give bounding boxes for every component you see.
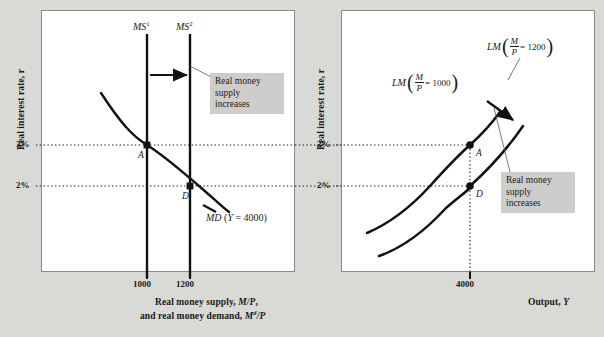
right-x-axis-title-var: Y [563,297,569,307]
right-xtick-label-4000: 4000 [456,279,474,289]
lm1-name: LM [392,77,406,88]
left-x-axis-title-var3: /P [257,311,266,321]
lm1-fraction: M P [415,73,425,93]
lm1-value: = 1000 [425,78,450,88]
right-x-axis-title: Output, Y [528,297,569,307]
right-y-axis-title: Real interest rate, r [316,69,326,150]
lm2-name: LM [487,41,501,52]
lm2-numerator: M [510,37,520,46]
left-xtick-label-1200: 1200 [176,279,194,289]
lm1-open-paren: ( [407,75,414,91]
lm2-label: LM ( M P = 1200 ) [487,36,553,57]
left-x-axis-title-line2: and real money demand, Md/P [140,309,265,321]
right-x-axis-title-text: Output, [528,297,563,307]
right-callout-line3: increases [506,198,570,210]
ms2-label: MS2 [176,20,193,32]
left-x-axis-title-text2: and real money demand, [140,311,242,321]
left-point-a-label: A [138,150,144,160]
lm1-label: LM ( M P = 1000 ) [392,72,458,93]
md-curve-name: MD [206,212,222,223]
left-ytick-2pct: 2% [16,180,30,190]
ms2-label-sup: 2 [189,20,192,27]
md-curve-label: MD (Y = 4000) [206,212,267,223]
right-point-a-label: A [476,148,482,158]
left-x-axis-title-line1: Real money supply, M/P, [155,297,258,307]
lm-curve-plot-area [341,10,595,272]
right-callout-line1: Real money [506,175,570,187]
right-callout-line2: supply [506,187,570,199]
left-point-d-label: D [182,191,189,201]
md-curve-arg: (Y = 4000) [224,212,267,223]
right-point-d-label: D [476,189,483,199]
right-callout-box: Real money supply increases [501,172,575,213]
lm1-close-paren: ) [451,75,458,91]
lm1-numerator: M [415,73,425,82]
lm2-open-paren: ( [502,39,509,55]
right-ytick-3pct: 3% [317,139,331,149]
ms1-label: MS1 [133,20,150,32]
left-xtick-label-1000: 1000 [133,279,151,289]
lm2-fraction: M P [510,37,520,57]
left-ytick-3pct: 3% [16,139,30,149]
left-x-axis-title-var1: M/P [238,297,255,307]
md-curve-y-var: Y [227,212,233,223]
money-market-plot-area [41,10,295,272]
ms1-label-text: MS [133,21,146,32]
left-x-axis-title-text1: Real money supply, [155,297,236,307]
right-ytick-2pct: 2% [317,180,331,190]
figure-container: Real interest rate, r 3% 2% 1000 1200 Re… [0,0,604,337]
ms2-label-text: MS [176,21,189,32]
left-callout-line2: supply [215,88,279,100]
lm2-close-paren: ) [546,39,553,55]
left-callout-box: Real money supply increases [210,73,284,114]
left-callout-line3: increases [215,99,279,111]
left-callout-line1: Real money [215,76,279,88]
ms1-label-sup: 1 [146,20,149,27]
left-y-axis-title: Real interest rate, r [16,69,26,150]
lm1-denominator: P [415,84,425,93]
lm2-value: = 1200 [520,42,545,52]
lm2-denominator: P [510,48,520,57]
